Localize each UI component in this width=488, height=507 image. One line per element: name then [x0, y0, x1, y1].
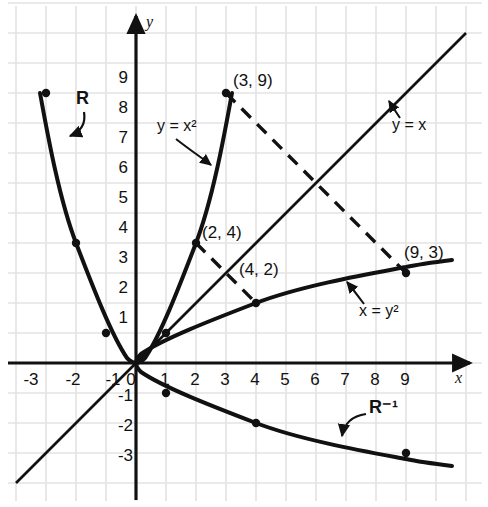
y-tick--1: -1: [118, 386, 133, 405]
point-2-4: [192, 239, 200, 247]
x-tick-6: 6: [310, 370, 319, 389]
point-label-4-2: (4, 2): [239, 260, 279, 279]
y-axis-label: y: [144, 13, 154, 31]
x-tick-4: 4: [250, 370, 259, 389]
point-4-2: [252, 299, 260, 307]
y-tick-6: 6: [119, 158, 128, 177]
y-tick-4: 4: [119, 218, 128, 237]
x-tick-9: 9: [400, 370, 409, 389]
label-x-equals-y-squared: x = y²: [359, 302, 399, 319]
point-1--1: [162, 389, 170, 397]
y-tick--3: -3: [118, 446, 133, 465]
label-y-equals-x: y = x: [392, 116, 426, 133]
x-tick--3: -3: [23, 370, 38, 389]
pointer-arrow-y-equals-x-squared: [176, 139, 211, 165]
x-tick-5: 5: [280, 370, 289, 389]
label-inverse-relation-R-inverse: R⁻¹: [369, 397, 398, 417]
y-tick-7: 7: [119, 128, 128, 147]
pointer-arrow-relation-R: [70, 112, 84, 136]
point--2-4: [72, 239, 80, 247]
label-relation-R: R: [76, 88, 89, 108]
point-label-2-4: (2, 4): [202, 223, 242, 242]
point-label-9-3: (9, 3): [404, 243, 444, 262]
point-4--2: [252, 419, 260, 427]
graph-figure: y x -3 -2 -1 0 1 2 3 4 5 6 7 8 9 9 8 7 6…: [0, 0, 488, 507]
point-3-9: [222, 89, 230, 97]
y-tick--2: -2: [118, 416, 133, 435]
x-axis-label: x: [454, 369, 462, 386]
point--3-9: [42, 89, 50, 97]
point-label-3-9: (3, 9): [233, 71, 273, 90]
point-9--3: [402, 449, 410, 457]
pointer-arrow-x-equals-y-squared: [347, 282, 364, 304]
point-1-1: [162, 329, 170, 337]
coordinate-plane: y x -3 -2 -1 0 1 2 3 4 5 6 7 8 9 9 8 7 6…: [0, 0, 488, 507]
x-tick-3: 3: [220, 370, 229, 389]
y-tick-3: 3: [119, 248, 128, 267]
y-tick-labels: 9 8 7 6 5 4 3 2 1 -1 -2 -3: [118, 68, 133, 465]
x-tick-8: 8: [370, 370, 379, 389]
y-tick-1: 1: [119, 308, 128, 327]
y-tick-9: 9: [119, 68, 128, 87]
y-tick-2: 2: [119, 278, 128, 297]
y-tick-8: 8: [119, 98, 128, 117]
label-y-equals-x-squared: y = x²: [157, 117, 197, 134]
x-tick-2: 2: [190, 370, 199, 389]
point-9-3: [402, 269, 410, 277]
x-tick-labels: -3 -2 -1 0 1 2 3 4 5 6 7 8 9: [23, 370, 409, 389]
x-tick-7: 7: [340, 370, 349, 389]
y-tick-5: 5: [119, 188, 128, 207]
point--1-1: [102, 329, 110, 337]
x-tick--2: -2: [65, 370, 80, 389]
